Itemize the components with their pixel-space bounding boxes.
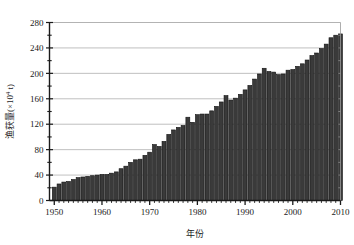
bar [162,141,166,200]
bar [238,94,242,200]
bar [191,122,195,200]
bar [167,134,171,200]
bar [291,70,295,201]
bar [86,176,90,200]
y-tick-label: 280 [30,18,44,28]
y-tick-label: 80 [35,145,45,155]
x-tick-label: 2000 [284,207,303,217]
bar [133,160,137,201]
bar [248,85,252,200]
bar [334,35,338,200]
x-tick-label: 1980 [188,207,207,217]
bar [114,172,118,201]
y-tick-label: 0 [39,196,44,206]
y-axis-title: 渔获量(×104 t) [4,84,15,139]
bar [110,173,114,200]
bar [296,66,300,200]
bar [100,174,104,200]
x-tick-label: 2010 [332,207,351,217]
bar [286,70,290,200]
bar [119,169,123,201]
bar [281,74,285,201]
y-tick-label: 160 [30,94,44,104]
x-tick-label: 1960 [93,207,112,217]
bar [90,176,94,201]
bar [67,181,71,200]
bar [76,178,80,201]
bar [129,162,133,200]
bar [224,96,228,201]
chart-figure: 04080120160200240280 1950196019701980199… [0,0,354,245]
y-tick-label: 200 [30,69,44,79]
bar [210,111,214,201]
bar [257,74,261,201]
bar [186,117,190,200]
bar [267,71,271,200]
bar [215,106,219,200]
bar [272,72,276,200]
bar [152,145,156,201]
y-tick-label: 40 [35,170,45,180]
bar [219,102,223,201]
chart-canvas: 04080120160200240280 1950196019701980199… [0,0,354,245]
x-tick-label: 1970 [141,207,160,217]
bar [105,174,109,200]
x-axis-title: 年份 [186,228,204,239]
bar [143,155,147,200]
bar [277,75,281,201]
bar [81,177,85,201]
bar [176,127,180,200]
bar [62,182,66,200]
bar [315,53,319,200]
y-tick-label: 120 [30,119,44,129]
x-tick-label: 1950 [45,207,64,217]
bar [71,180,75,201]
bar [234,98,238,200]
y-tick-label: 240 [30,43,44,53]
bar [181,125,185,200]
y-axis-title-text: 渔获量(×104 t) [4,84,15,139]
bar [243,90,247,201]
bar [195,115,199,201]
bar [52,187,56,200]
bar [300,64,304,201]
bar [253,79,257,200]
bar [324,44,328,200]
bar [329,38,333,201]
x-tick-label: 1990 [236,207,255,217]
bar [262,68,266,200]
bar [319,49,323,201]
bar [200,114,204,200]
bar [229,100,233,200]
bar [172,130,176,201]
bar [305,60,309,200]
bar [138,159,142,200]
bar [124,166,128,200]
bar [310,56,314,201]
bar [205,114,209,200]
bar [95,175,99,200]
bar [157,146,161,200]
bar [148,152,152,200]
bar [57,184,61,201]
